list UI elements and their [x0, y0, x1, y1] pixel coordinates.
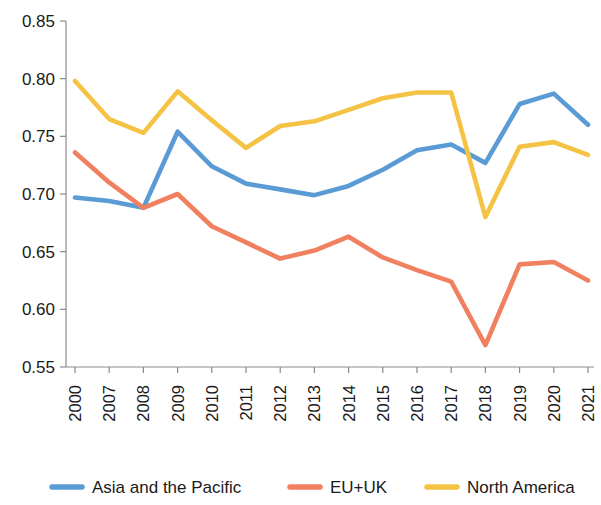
y-tick-label: 0.55 [22, 358, 55, 377]
x-tick-label: 2008 [134, 385, 152, 422]
x-tick-label: 2018 [476, 385, 494, 422]
x-tick-label: 2011 [237, 385, 255, 420]
series-line-2 [75, 81, 588, 217]
axis-lines [66, 21, 594, 367]
chart-legend: Asia and the PacificEU+UKNorth America [52, 478, 575, 497]
y-tick-label: 0.85 [22, 12, 55, 31]
chart-canvas: 0.850.800.750.700.650.600.55 20002007200… [0, 0, 601, 505]
x-tick-label: 2014 [340, 385, 358, 422]
x-axis-ticks: 2000200720082009201020112012201320142015… [66, 367, 597, 422]
y-tick-label: 0.80 [22, 70, 55, 89]
x-tick-label: 2015 [374, 385, 392, 422]
y-axis-ticks: 0.850.800.750.700.650.600.55 [22, 12, 66, 377]
x-tick-label: 2013 [305, 385, 323, 422]
x-tick-label: 2019 [511, 385, 529, 422]
x-tick-label: 2016 [408, 385, 426, 422]
y-tick-label: 0.70 [22, 185, 55, 204]
x-tick-label: 2021 [579, 385, 597, 422]
x-tick-label: 2007 [100, 385, 118, 422]
line-chart: 0.850.800.750.700.650.600.55 20002007200… [0, 0, 601, 505]
y-tick-label: 0.75 [22, 127, 55, 146]
x-tick-label: 2020 [545, 385, 563, 422]
x-tick-label: 2010 [203, 385, 221, 422]
x-tick-label: 2017 [442, 385, 460, 422]
legend-label-0[interactable]: Asia and the Pacific [92, 478, 242, 497]
x-tick-label: 2009 [169, 385, 187, 422]
series-line-0 [75, 94, 588, 208]
y-tick-label: 0.65 [22, 243, 55, 262]
series-line-1 [75, 152, 588, 345]
x-tick-label: 2012 [271, 385, 289, 422]
x-tick-label: 2000 [66, 385, 84, 422]
series-lines [75, 81, 588, 345]
legend-label-1[interactable]: EU+UK [330, 478, 388, 497]
legend-label-2[interactable]: North America [467, 478, 575, 497]
y-tick-label: 0.60 [22, 300, 55, 319]
